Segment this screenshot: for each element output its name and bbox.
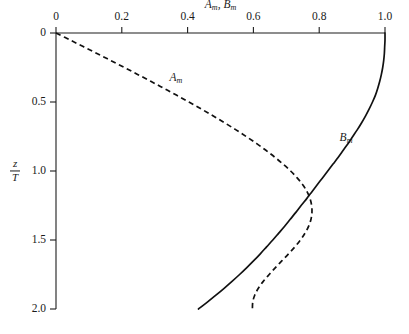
y-tick-label: 1.5	[0, 234, 46, 246]
y-tick-label: 0	[0, 27, 46, 39]
figure-container: 00.20.40.60.81.0 00.51.01.52.0 Am, Bm z …	[0, 0, 409, 334]
y-tick-label: 1.0	[0, 165, 46, 177]
y-axis-title-numerator: z	[10, 158, 20, 170]
y-axis-title-denominator: T	[10, 172, 20, 184]
x-tick-label: 1.0	[378, 11, 392, 23]
x-tick-label: 0.8	[312, 11, 326, 23]
x-tick-label: 0.2	[115, 11, 129, 23]
y-tick-label: 0.5	[0, 96, 46, 108]
axes-group	[50, 27, 385, 309]
plot-canvas	[0, 0, 409, 334]
series-group	[56, 33, 385, 309]
y-tick-label: 2.0	[0, 303, 46, 315]
curve-label-bm: Bm	[340, 132, 353, 144]
x-axis-title: Am, Bm	[205, 0, 236, 11]
x-axis-ticks	[56, 27, 385, 33]
x-tick-label: 0.4	[180, 11, 194, 23]
curve-label-am: Am	[170, 72, 183, 84]
y-axis-title: z T	[10, 158, 20, 183]
x-tick-label: 0.6	[246, 11, 260, 23]
y-axis-ticks	[50, 33, 56, 309]
x-tick-label: 0	[53, 11, 59, 23]
series-curve-am	[56, 33, 312, 309]
